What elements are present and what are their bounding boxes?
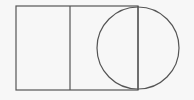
geometry-diagram xyxy=(0,0,194,100)
rectangle xyxy=(16,6,138,90)
